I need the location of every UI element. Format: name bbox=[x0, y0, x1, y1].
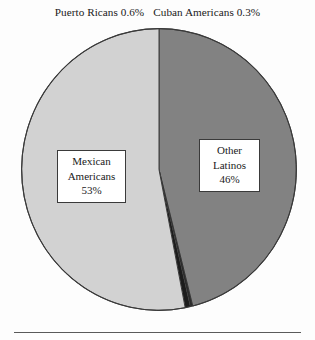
top-annotation-row: Puerto Ricans 0.6%Cuban Americans 0.3% bbox=[0, 6, 315, 19]
callout-mexican-line2: Americans bbox=[65, 169, 118, 184]
callout-other-line2: Latinos bbox=[207, 158, 252, 173]
callout-mexican-line1: Mexican bbox=[65, 154, 118, 169]
cuban-americans-annotation: Cuban Americans 0.3% bbox=[153, 6, 260, 19]
callout-mexican-line3: 53% bbox=[65, 183, 118, 198]
bottom-horizontal-rule bbox=[14, 332, 301, 333]
callout-other-line3: 46% bbox=[207, 172, 252, 187]
callout-mexican-americans: Mexican Americans 53% bbox=[57, 150, 126, 203]
callout-other-latinos: Other Latinos 46% bbox=[199, 139, 260, 192]
callout-other-line1: Other bbox=[207, 143, 252, 158]
pie-chart-figure: Puerto Ricans 0.6%Cuban Americans 0.3% M… bbox=[0, 0, 315, 340]
puerto-ricans-annotation: Puerto Ricans 0.6% bbox=[55, 6, 144, 19]
